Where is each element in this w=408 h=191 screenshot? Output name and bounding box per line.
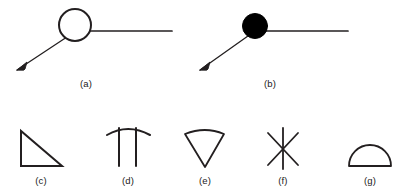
caption-panel-a: (a) bbox=[74, 79, 98, 89]
panel-f-drawing bbox=[268, 128, 298, 169]
panel-b-filled-circle-node bbox=[243, 14, 268, 39]
panel-c-drawing bbox=[21, 131, 62, 166]
caption-panel-f: (f) bbox=[271, 176, 295, 186]
caption-panel-d: (d) bbox=[116, 176, 140, 186]
caption-panel-b: (b) bbox=[258, 79, 282, 89]
panel-c-right-triangle bbox=[21, 131, 62, 166]
caption-panel-c: (c) bbox=[29, 176, 53, 186]
panel-g-dome bbox=[349, 145, 391, 166]
panel-a-drawing bbox=[17, 9, 172, 70]
caption-panel-e: (e) bbox=[193, 176, 217, 186]
panel-d-drawing bbox=[107, 128, 150, 166]
figure-plate: (a) (b) (c) (d) (e) (f) (g) bbox=[0, 0, 408, 191]
panel-a-arrowhead bbox=[17, 62, 27, 70]
caption-panel-g: (g) bbox=[358, 176, 382, 186]
panel-b-drawing bbox=[200, 14, 348, 71]
panel-e-wedge bbox=[185, 130, 224, 167]
panel-g-drawing bbox=[349, 145, 391, 166]
panel-a-hollow-circle-node bbox=[59, 9, 91, 41]
panel-b-arrowhead bbox=[200, 62, 210, 70]
panel-e-drawing bbox=[185, 130, 224, 167]
panel-d-arch-curve bbox=[107, 129, 150, 135]
figure-drawing-canvas bbox=[0, 0, 408, 191]
